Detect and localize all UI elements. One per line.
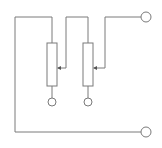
terminal-bottom-right — [141, 127, 151, 137]
wiper-arrow-r2-icon — [93, 66, 97, 70]
resistor-r2 — [83, 43, 93, 86]
wire-r2-wiper-to-terminal — [94, 17, 141, 68]
resistor-r1 — [47, 43, 57, 86]
terminal-r2-bottom — [84, 98, 92, 106]
wiper-arrow-r1-icon — [57, 66, 61, 70]
wire-left-loop — [15, 17, 141, 132]
circuit-diagram — [0, 0, 162, 148]
terminal-r1-bottom — [48, 98, 56, 106]
terminal-top-right — [141, 12, 151, 22]
